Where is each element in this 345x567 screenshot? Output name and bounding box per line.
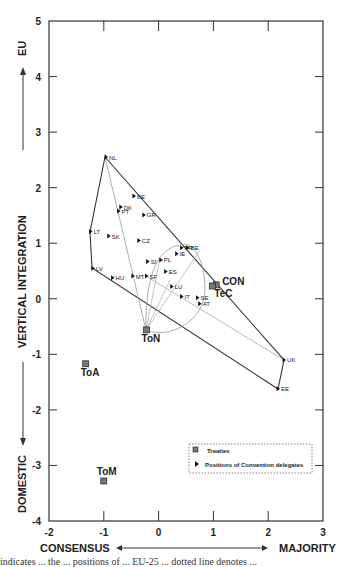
point-label: LV — [96, 266, 103, 272]
y-tick-label: 3 — [35, 127, 41, 138]
point-label: GR — [147, 212, 157, 218]
point-label: SF — [150, 274, 158, 280]
point-label: SK — [112, 234, 120, 240]
point-label: SI — [151, 259, 157, 265]
y-tick-label: 0 — [35, 294, 41, 305]
point-label: LU — [175, 284, 183, 290]
point-label: LT — [94, 229, 101, 235]
delegate-marker-icon — [111, 275, 115, 280]
convex-hull — [90, 157, 284, 389]
treaty-label: ToM — [97, 466, 117, 477]
data-points: NLBEDKPTGRLTSKCZLVHUMTSFSIPLESIEFRBELUIT… — [89, 155, 295, 393]
arrow-down-head — [20, 438, 26, 446]
delegate-marker-icon — [196, 295, 200, 300]
treaty-label: TeC — [214, 288, 232, 299]
y-tick-label: -4 — [32, 516, 41, 527]
arrow-left-head — [116, 545, 122, 551]
xlabel-left: CONSENSUS — [40, 542, 110, 554]
y-tick-label: 1 — [35, 238, 41, 249]
legend-treaties: Treaties — [207, 448, 230, 454]
x-tick-label: 2 — [265, 527, 271, 538]
point-label: SE — [201, 295, 209, 301]
treaty-label: ToN — [142, 333, 161, 344]
y-tick-label: 2 — [35, 183, 41, 194]
x-tick-label: 0 — [156, 527, 162, 538]
delegate-marker-icon — [107, 234, 111, 239]
treaty-square-icon — [193, 447, 198, 452]
legend: Treaties Positions of Convention delegat… — [189, 444, 312, 473]
delegate-marker-icon — [170, 284, 174, 289]
point-label: AT — [203, 301, 211, 307]
point-label: IE — [180, 251, 186, 257]
y-tick-label: 4 — [35, 72, 41, 83]
delegate-marker-icon — [145, 274, 149, 279]
ylabel-bottom: DOMESTIC — [16, 455, 28, 513]
point-label: ES — [169, 269, 177, 275]
delegate-marker-icon — [146, 259, 150, 264]
y-tick-label: -2 — [32, 405, 41, 416]
treaty-label: ToA — [81, 367, 100, 378]
x-tick-label: -1 — [99, 527, 108, 538]
x-tick-label: -2 — [45, 527, 54, 538]
delegate-marker-icon — [132, 194, 136, 199]
point-label: PT — [122, 209, 130, 215]
point-label: IT — [185, 294, 191, 300]
point-label: CZ — [142, 238, 150, 244]
point-label: BE — [137, 194, 145, 200]
delegate-marker-icon — [137, 238, 141, 243]
point-label: EE — [281, 386, 289, 392]
figure-caption: indicates ... the ... positions of ... E… — [0, 556, 345, 567]
y-tick-label: -1 — [32, 349, 41, 360]
ylabel-middle: VERTICAL INTEGRATION — [16, 215, 28, 348]
x-tick-label: 1 — [211, 527, 217, 538]
xlabel-right: MAJORITY — [279, 542, 337, 554]
delegate-marker-icon — [164, 269, 168, 274]
treaty-label: CON — [222, 276, 244, 287]
point-label: UK — [287, 357, 295, 363]
delegate-marker-icon — [159, 257, 163, 262]
delegate-marker-icon — [198, 301, 202, 306]
legend-delegates: Positions of Convention delegates — [205, 462, 304, 468]
arrow-up-head — [20, 67, 26, 75]
arrow-right-head — [262, 545, 268, 551]
ylabel-top: EU — [16, 41, 28, 56]
delegate-marker-icon — [175, 251, 179, 256]
y-tick-label: 5 — [35, 16, 41, 27]
delegate-marker-icon — [142, 212, 146, 217]
treaty-marker-icon — [101, 478, 107, 484]
point-label: BE — [191, 245, 199, 251]
delegate-marker-icon — [117, 209, 121, 214]
point-label: MT — [136, 274, 145, 280]
point-label: PL — [164, 257, 172, 263]
y-tick-label: -3 — [32, 460, 41, 471]
point-label: HU — [116, 275, 125, 281]
x-tick-label: 3 — [320, 527, 326, 538]
point-label: NL — [109, 155, 117, 161]
delegate-marker-icon — [283, 357, 287, 362]
